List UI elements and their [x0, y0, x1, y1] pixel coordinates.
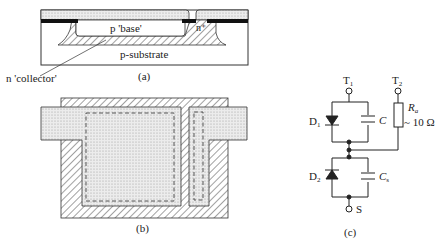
- emitter-label: n⁺: [196, 22, 206, 33]
- caption-c: (c): [344, 226, 357, 239]
- resistor-ra-icon: [394, 103, 403, 127]
- cross-section-diagram: p 'base' n⁺ p-substrate n 'collector' (a…: [6, 10, 248, 84]
- base-label: p 'base': [110, 22, 142, 34]
- ra-label: Ra: [407, 101, 419, 115]
- ra-value: ~ 10 Ω: [404, 116, 435, 128]
- oxide-layer-right: [196, 10, 248, 20]
- d1-label: D1: [309, 115, 321, 129]
- metal-contact-collector: [182, 19, 196, 23]
- diode-d2-icon: [326, 170, 338, 179]
- substrate-label: p-substrate: [120, 48, 168, 60]
- terminal-s: [346, 206, 352, 212]
- terminal-t1: [346, 88, 352, 94]
- equivalent-circuit: [325, 88, 403, 212]
- metal-contact-emitter: [207, 19, 248, 23]
- metal-contact-base: [41, 19, 78, 23]
- s-label: S: [356, 203, 362, 215]
- caption-b: (b): [136, 222, 149, 235]
- circuit-labels: T1 T2 D1 C Ra ~ 10 Ω D2 Cs S (c): [309, 74, 435, 239]
- collector-label: n 'collector': [6, 72, 57, 84]
- d2-label: D2: [309, 170, 321, 184]
- figure-canvas: p 'base' n⁺ p-substrate n 'collector' (a…: [0, 0, 448, 244]
- c-label: C: [379, 114, 387, 126]
- diode-d1-icon: [326, 116, 338, 125]
- caption-a: (a): [138, 70, 151, 83]
- layout-diagram: (b): [41, 98, 247, 235]
- t1-label: T1: [343, 74, 354, 88]
- oxide-layer-left: [41, 10, 189, 20]
- t2-label: T2: [392, 74, 403, 88]
- cs-label: Cs: [379, 170, 389, 184]
- terminal-t2: [395, 88, 401, 94]
